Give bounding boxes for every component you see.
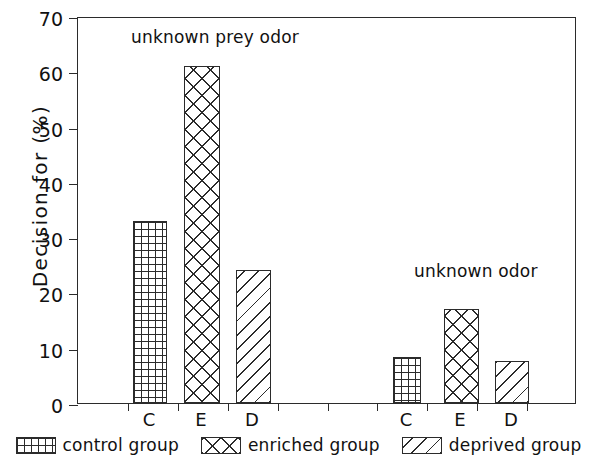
- legend-item: deprived group: [402, 437, 582, 454]
- y-tick-mark: 30: [69, 239, 78, 240]
- y-tick-label: 60: [39, 65, 63, 84]
- group-annotation: unknown odor: [414, 263, 538, 280]
- x-tick-label: C: [134, 411, 164, 429]
- x-tick-mark: [178, 403, 179, 411]
- x-tick-mark: [128, 403, 129, 411]
- x-tick-label: E: [445, 411, 475, 429]
- y-tick-label: 50: [39, 120, 63, 139]
- x-tick-mark: [527, 403, 528, 411]
- legend-label: control group: [63, 437, 179, 454]
- bar-chart-figure: Decision for (%) 010203040506070 unknown…: [0, 0, 597, 473]
- x-tick-label: E: [186, 411, 216, 429]
- bar-odor-C: [393, 357, 421, 403]
- x-tick-mark: [377, 403, 378, 411]
- y-tick-mark: 70: [69, 18, 78, 19]
- legend-item: control group: [16, 437, 179, 454]
- x-tick-mark: [477, 403, 478, 411]
- x-tick-mark: [427, 403, 428, 411]
- bar-prey-D: [236, 270, 271, 403]
- y-tick-label: 20: [39, 286, 63, 305]
- bar-odor-D: [495, 361, 529, 403]
- legend-item: enriched group: [201, 437, 380, 454]
- y-tick-label: 70: [39, 10, 63, 29]
- y-tick-mark: 50: [69, 129, 78, 130]
- legend-swatch-grid-icon: [16, 437, 56, 454]
- y-tick-label: 30: [39, 231, 63, 250]
- x-tick-label: D: [496, 411, 526, 429]
- y-tick-label: 40: [39, 175, 63, 194]
- legend-swatch-cross-icon: [201, 437, 241, 454]
- chart-legend: control groupenriched groupdeprived grou…: [0, 437, 597, 454]
- x-tick-mark: [228, 403, 229, 411]
- plot-area: 010203040506070 unknown prey odorunknown…: [77, 17, 576, 404]
- x-tick-mark: [328, 403, 329, 411]
- y-tick-mark: 10: [69, 350, 78, 351]
- x-tick-label: C: [391, 411, 421, 429]
- y-tick-mark: 20: [69, 294, 78, 295]
- x-tick-label: D: [237, 411, 267, 429]
- legend-swatch-diag-icon: [402, 437, 442, 454]
- bar-prey-C: [133, 221, 167, 403]
- y-tick-mark: 60: [69, 73, 78, 74]
- bar-odor-E: [444, 309, 479, 403]
- bar-prey-E: [184, 66, 220, 403]
- legend-label: deprived group: [449, 437, 582, 454]
- x-tick-mark: [278, 403, 279, 411]
- y-tick-mark: 0: [69, 405, 78, 406]
- legend-label: enriched group: [248, 437, 380, 454]
- y-tick-label: 0: [51, 397, 63, 416]
- y-tick-mark: 40: [69, 184, 78, 185]
- group-annotation: unknown prey odor: [131, 29, 299, 46]
- y-tick-label: 10: [39, 341, 63, 360]
